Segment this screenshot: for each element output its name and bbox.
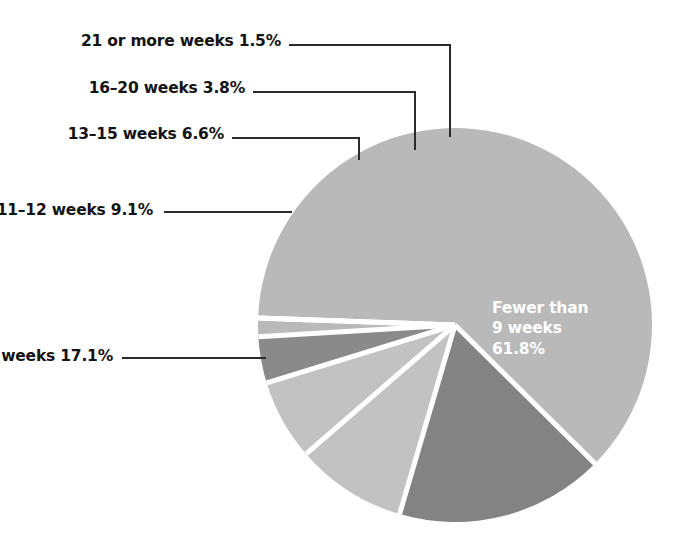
- label-fewer-than-9-weeks-line1: Fewer than: [492, 298, 588, 318]
- label-13-15-weeks: 13–15 weeks 6.6%: [68, 126, 224, 143]
- label-21-or-more-weeks: 21 or more weeks 1.5%: [81, 33, 281, 50]
- pie-slices: [258, 128, 652, 522]
- label-9-10-weeks: 9–10 weeks 17.1%: [0, 348, 113, 365]
- pie-chart: 21 or more weeks 1.5% 16–20 weeks 3.8% 1…: [0, 0, 681, 544]
- label-fewer-than-9-weeks: Fewer than 9 weeks 61.8%: [492, 298, 588, 359]
- label-fewer-than-9-weeks-line3: 61.8%: [492, 339, 588, 359]
- label-fewer-than-9-weeks-line2: 9 weeks: [492, 318, 588, 338]
- label-16-20-weeks: 16–20 weeks 3.8%: [89, 80, 245, 97]
- label-11-12-weeks: 11–12 weeks 9.1%: [0, 202, 153, 219]
